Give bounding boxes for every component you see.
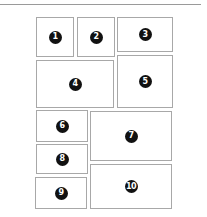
panel-5: 5 (117, 55, 173, 108)
panel-10: 10 (90, 164, 172, 209)
panel-number-badge: 4 (69, 78, 82, 91)
panel-2: 2 (77, 17, 115, 57)
top-divider-line (0, 4, 201, 5)
panel-number-badge: 3 (139, 28, 152, 41)
panel-8: 8 (36, 144, 88, 174)
panel-9: 9 (35, 177, 87, 209)
panel-6: 6 (36, 110, 88, 142)
panel-1: 1 (36, 17, 74, 57)
panel-3: 3 (117, 17, 173, 52)
panel-4: 4 (36, 60, 114, 108)
panel-number-badge: 8 (56, 153, 69, 166)
panel-number-badge: 7 (125, 130, 138, 143)
panel-7: 7 (90, 111, 172, 161)
panel-number-badge: 6 (56, 120, 69, 133)
panel-number-badge: 2 (90, 31, 103, 44)
panel-number-badge: 9 (55, 187, 68, 200)
panel-number-badge: 5 (139, 75, 152, 88)
panel-number-badge: 1 (49, 31, 62, 44)
panel-number-badge: 10 (125, 180, 138, 193)
